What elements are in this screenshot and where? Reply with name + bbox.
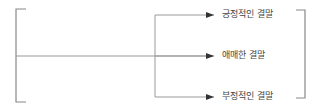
outcome-label-positive: 긍정적인 결말 <box>222 9 273 20</box>
right-bracket <box>296 10 305 98</box>
outcome-label-ambiguous: 애매한 결말 <box>222 50 265 61</box>
outcome-label-negative: 부정적인 결말 <box>222 91 273 102</box>
